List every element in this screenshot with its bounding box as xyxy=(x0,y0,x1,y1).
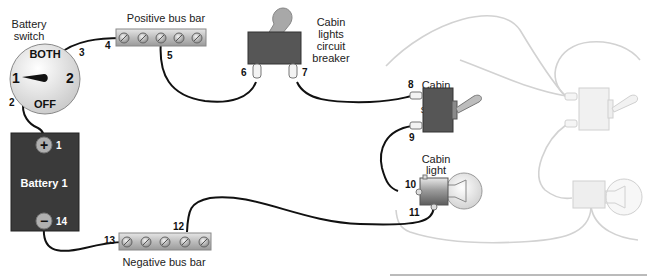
wires xyxy=(23,38,434,251)
battery: + 1 Battery 1 − 14 xyxy=(11,133,79,231)
positive-bus-bar: Positive bus bar 4 5 xyxy=(105,12,206,61)
position-1: 1 xyxy=(12,70,20,86)
breaker-label-1: Cabin xyxy=(317,16,346,28)
position-2: 2 xyxy=(66,70,74,86)
breaker-label-3: circuit xyxy=(317,40,346,52)
terminal-14: 14 xyxy=(56,216,68,227)
negative-bus-bar-label: Negative bus bar xyxy=(122,256,205,268)
position-both: BOTH xyxy=(29,48,60,60)
light-label-2: light xyxy=(426,164,446,176)
position-off: OFF xyxy=(34,98,56,110)
switch-terminal-9 xyxy=(410,122,422,129)
terminal-3: 3 xyxy=(79,47,85,58)
ghost-wire xyxy=(539,125,572,198)
battery-switch[interactable]: Battery switch BOTH 1 2 OFF 3 2 xyxy=(9,18,85,114)
cabin-light-switch[interactable]: Cabin light switch 8 9 xyxy=(408,79,481,143)
breaker-body xyxy=(248,32,301,64)
switch-body xyxy=(423,88,453,132)
negative-bus-bar: 13 12 Negative bus bar xyxy=(104,221,211,268)
breaker-terminal-6 xyxy=(253,64,261,78)
terminal-5: 5 xyxy=(167,50,173,61)
bulb-icon xyxy=(446,173,482,209)
wiring-diagram: Battery switch BOTH 1 2 OFF 3 2 + 1 Batt… xyxy=(0,0,647,276)
circuit-breaker[interactable]: 6 7 Cabin lights circuit breaker xyxy=(241,8,350,78)
minus-icon: − xyxy=(40,213,48,229)
cabin-light: Cabin light 10 11 xyxy=(405,153,482,218)
toggle-lever-icon[interactable] xyxy=(456,95,481,113)
terminal-1: 1 xyxy=(56,140,62,151)
terminal-10: 10 xyxy=(405,179,417,190)
bulb-base xyxy=(420,178,448,205)
breaker-terminal-7 xyxy=(289,64,297,78)
terminal-2: 2 xyxy=(9,97,15,108)
terminal-12: 12 xyxy=(173,221,185,232)
battery-label: Battery 1 xyxy=(20,177,67,189)
ghost-bulb-base xyxy=(573,181,605,208)
positive-bus-bar-label: Positive bus bar xyxy=(127,12,206,24)
ghost-wire xyxy=(396,207,591,243)
terminal-11: 11 xyxy=(409,207,420,218)
ghost-bulb xyxy=(606,179,642,215)
terminal-8: 8 xyxy=(408,79,414,90)
ghost-switch xyxy=(579,88,609,130)
terminal-9: 9 xyxy=(409,132,415,143)
plus-icon: + xyxy=(40,137,48,153)
breaker-label-4: breaker xyxy=(312,52,350,64)
terminal-7: 7 xyxy=(302,67,308,78)
battery-switch-label: Battery xyxy=(12,18,47,30)
switch-terminal-8 xyxy=(410,92,422,99)
breaker-reset-button[interactable] xyxy=(268,8,292,34)
terminal-13: 13 xyxy=(104,235,116,246)
wire-7-8 xyxy=(297,82,412,102)
breaker-label-2: lights xyxy=(318,28,344,40)
ghost-toggle-lever xyxy=(612,95,638,112)
battery-switch-label-2: switch xyxy=(14,30,45,42)
terminal-6: 6 xyxy=(241,67,247,78)
terminal-4: 4 xyxy=(105,40,111,51)
